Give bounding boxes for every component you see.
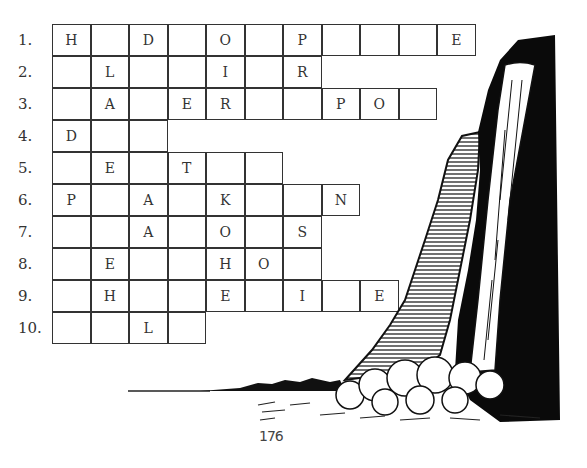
page-number: 176	[259, 428, 283, 444]
waterfall-illustration	[0, 0, 587, 468]
